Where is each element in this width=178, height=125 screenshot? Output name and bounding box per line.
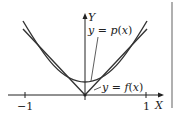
- tick-label-neg1: −1: [17, 100, 33, 113]
- y-axis-arrow-icon: [83, 13, 88, 19]
- f-label: y = f(x): [101, 81, 143, 94]
- tick-label-pos1: 1: [143, 100, 150, 113]
- chart: Y y = p(x) y = f(x) −1 1 X: [0, 0, 178, 125]
- p-leader-line: [91, 37, 98, 81]
- x-axis-arrow-icon: [158, 93, 164, 98]
- y-axis-label: Y: [88, 11, 97, 24]
- x-axis-label: X: [154, 99, 164, 112]
- p-label: y = p(x): [87, 24, 132, 37]
- f-leader-line: [94, 87, 101, 90]
- origin-point: [83, 93, 86, 96]
